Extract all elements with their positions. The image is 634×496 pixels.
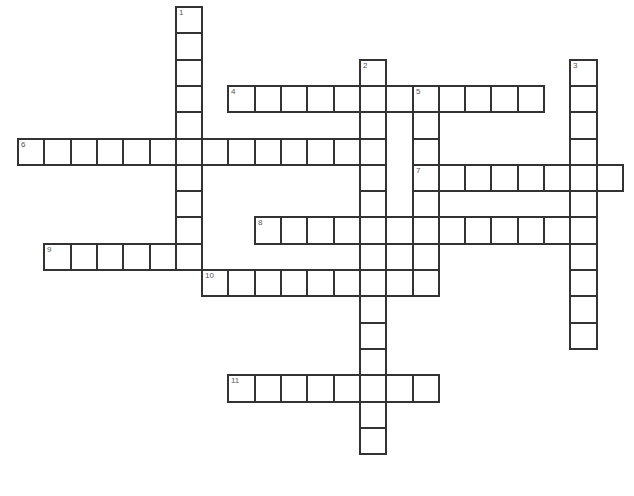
crossword-cell[interactable]: [175, 138, 203, 166]
crossword-cell[interactable]: [517, 164, 545, 192]
crossword-cell[interactable]: [464, 85, 492, 113]
crossword-cell[interactable]: [543, 216, 571, 245]
letter-input[interactable]: [229, 87, 254, 111]
letter-input[interactable]: [387, 87, 412, 111]
letter-input[interactable]: [440, 166, 464, 190]
letter-input[interactable]: [256, 140, 280, 164]
crossword-cell[interactable]: [175, 111, 203, 140]
letter-input[interactable]: [361, 324, 385, 348]
letter-input[interactable]: [361, 218, 385, 243]
letter-input[interactable]: [256, 87, 280, 111]
crossword-cell[interactable]: [333, 85, 361, 113]
letter-input[interactable]: [361, 245, 385, 269]
crossword-cell[interactable]: [569, 164, 598, 192]
crossword-cell[interactable]: [96, 243, 124, 271]
crossword-cell[interactable]: 6: [17, 138, 45, 166]
crossword-cell[interactable]: 7: [412, 164, 440, 192]
letter-input[interactable]: [177, 34, 201, 59]
letter-input[interactable]: [177, 192, 201, 216]
letter-input[interactable]: [414, 218, 438, 243]
crossword-cell[interactable]: [464, 164, 492, 192]
crossword-cell[interactable]: [175, 243, 203, 271]
letter-input[interactable]: [177, 166, 201, 190]
crossword-cell[interactable]: [175, 190, 203, 218]
letter-input[interactable]: [361, 61, 385, 85]
crossword-cell[interactable]: [306, 374, 335, 403]
letter-input[interactable]: [545, 218, 569, 243]
letter-input[interactable]: [256, 218, 280, 243]
letter-input[interactable]: [414, 271, 438, 295]
crossword-cell[interactable]: [412, 216, 440, 245]
letter-input[interactable]: [308, 218, 333, 243]
letter-input[interactable]: [492, 87, 517, 111]
letter-input[interactable]: [571, 166, 596, 190]
crossword-cell[interactable]: [464, 216, 492, 245]
crossword-cell[interactable]: [280, 85, 308, 113]
crossword-cell[interactable]: [280, 269, 308, 297]
letter-input[interactable]: [361, 297, 385, 322]
letter-input[interactable]: [361, 376, 385, 401]
crossword-cell[interactable]: 4: [227, 85, 256, 113]
crossword-cell[interactable]: [359, 427, 387, 455]
crossword-cell[interactable]: [490, 216, 519, 245]
crossword-cell[interactable]: [359, 401, 387, 429]
crossword-cell[interactable]: [333, 138, 361, 166]
crossword-cell[interactable]: [517, 85, 545, 113]
crossword-cell[interactable]: 3: [569, 59, 598, 87]
crossword-cell[interactable]: [175, 32, 203, 61]
letter-input[interactable]: [361, 271, 385, 295]
letter-input[interactable]: [308, 87, 333, 111]
letter-input[interactable]: [492, 166, 517, 190]
letter-input[interactable]: [387, 376, 412, 401]
crossword-cell[interactable]: [569, 322, 598, 350]
letter-input[interactable]: [177, 140, 201, 164]
letter-input[interactable]: [492, 218, 517, 243]
letter-input[interactable]: [571, 297, 596, 322]
crossword-cell[interactable]: [543, 164, 571, 192]
letter-input[interactable]: [124, 140, 149, 164]
letter-input[interactable]: [571, 113, 596, 138]
letter-input[interactable]: [335, 271, 359, 295]
letter-input[interactable]: [414, 113, 438, 138]
letter-input[interactable]: [151, 140, 175, 164]
crossword-cell[interactable]: [385, 269, 414, 297]
letter-input[interactable]: [414, 140, 438, 164]
crossword-cell[interactable]: [359, 243, 387, 271]
crossword-cell[interactable]: [254, 374, 282, 403]
letter-input[interactable]: [229, 271, 254, 295]
letter-input[interactable]: [571, 192, 596, 216]
letter-input[interactable]: [571, 324, 596, 348]
crossword-cell[interactable]: [96, 138, 124, 166]
crossword-cell[interactable]: [280, 138, 308, 166]
letter-input[interactable]: [177, 8, 201, 32]
letter-input[interactable]: [414, 166, 438, 190]
crossword-cell[interactable]: [438, 85, 466, 113]
letter-input[interactable]: [256, 376, 280, 401]
letter-input[interactable]: [282, 376, 306, 401]
letter-input[interactable]: [203, 271, 227, 295]
crossword-cell[interactable]: 2: [359, 59, 387, 87]
letter-input[interactable]: [361, 140, 385, 164]
crossword-cell[interactable]: [359, 190, 387, 218]
crossword-cell[interactable]: [333, 269, 361, 297]
letter-input[interactable]: [519, 87, 543, 111]
crossword-cell[interactable]: [385, 216, 414, 245]
crossword-cell[interactable]: [359, 164, 387, 192]
crossword-cell[interactable]: [517, 216, 545, 245]
letter-input[interactable]: [229, 140, 254, 164]
crossword-cell[interactable]: [254, 138, 282, 166]
letter-input[interactable]: [571, 218, 596, 243]
crossword-cell[interactable]: [70, 138, 98, 166]
crossword-cell[interactable]: [569, 138, 598, 166]
letter-input[interactable]: [414, 376, 438, 401]
crossword-cell[interactable]: [490, 85, 519, 113]
letter-input[interactable]: [203, 140, 227, 164]
crossword-cell[interactable]: [359, 295, 387, 324]
letter-input[interactable]: [282, 218, 306, 243]
crossword-cell[interactable]: [359, 85, 387, 113]
crossword-cell[interactable]: [412, 111, 440, 140]
crossword-cell[interactable]: [306, 138, 335, 166]
crossword-cell[interactable]: [359, 111, 387, 140]
crossword-cell[interactable]: [149, 138, 177, 166]
crossword-cell[interactable]: [280, 374, 308, 403]
